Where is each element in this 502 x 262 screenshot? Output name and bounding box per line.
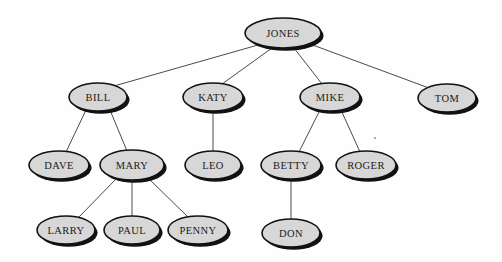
node-label: ROGER xyxy=(347,160,385,171)
tree-node[interactable]: BETTY xyxy=(261,151,324,182)
tree-node[interactable]: KATY xyxy=(183,83,246,114)
tree-node[interactable]: LEO xyxy=(185,151,244,182)
tree-edge xyxy=(310,44,429,88)
node-label: DON xyxy=(279,228,303,239)
tree-node[interactable]: LARRY xyxy=(37,216,98,247)
node-label: DAVE xyxy=(44,160,73,171)
tree-node[interactable]: PAUL xyxy=(104,216,163,247)
node-label: TOM xyxy=(435,93,460,104)
node-label: MIKE xyxy=(316,92,344,103)
scan-speck xyxy=(374,137,376,139)
node-label: LARRY xyxy=(47,225,84,236)
tree-node[interactable]: PENNY xyxy=(168,216,231,247)
tree-edge xyxy=(114,45,258,86)
tree-node[interactable]: DAVE xyxy=(29,151,92,182)
node-label: PAUL xyxy=(118,225,146,236)
tree-node[interactable]: ROGER xyxy=(336,151,399,182)
node-label: MARY xyxy=(116,160,149,171)
tree-node[interactable]: BILL xyxy=(69,83,130,114)
tree-edge xyxy=(341,110,360,152)
tree-edge xyxy=(110,110,127,151)
node-label: PENNY xyxy=(179,225,216,236)
tree-node[interactable]: TOM xyxy=(418,84,479,115)
tree-node[interactable]: MIKE xyxy=(300,83,363,114)
node-label: JONES xyxy=(266,28,300,39)
node-label: BILL xyxy=(86,92,111,103)
tree-diagram-canvas: JONESBILLKATYMIKETOMDAVEMARYLEOBETTYROGE… xyxy=(0,0,502,262)
nodes-layer: JONESBILLKATYMIKETOMDAVEMARYLEOBETTYROGE… xyxy=(29,18,479,250)
tree-node[interactable]: DON xyxy=(262,219,323,250)
tree-edge xyxy=(299,110,320,152)
tree-edge xyxy=(79,178,117,217)
node-label: LEO xyxy=(202,160,224,171)
tree-diagram-svg: JONESBILLKATYMIKETOMDAVEMARYLEOBETTYROGE… xyxy=(0,0,502,262)
tree-node[interactable]: MARY xyxy=(100,150,167,183)
tree-edge xyxy=(148,178,188,217)
tree-edge xyxy=(66,110,86,152)
tree-edge xyxy=(294,48,322,84)
edges-layer xyxy=(66,44,429,220)
node-label: BETTY xyxy=(273,160,309,171)
artifacts-layer xyxy=(374,137,376,139)
node-label: KATY xyxy=(198,92,228,103)
tree-node[interactable]: JONES xyxy=(245,18,324,51)
